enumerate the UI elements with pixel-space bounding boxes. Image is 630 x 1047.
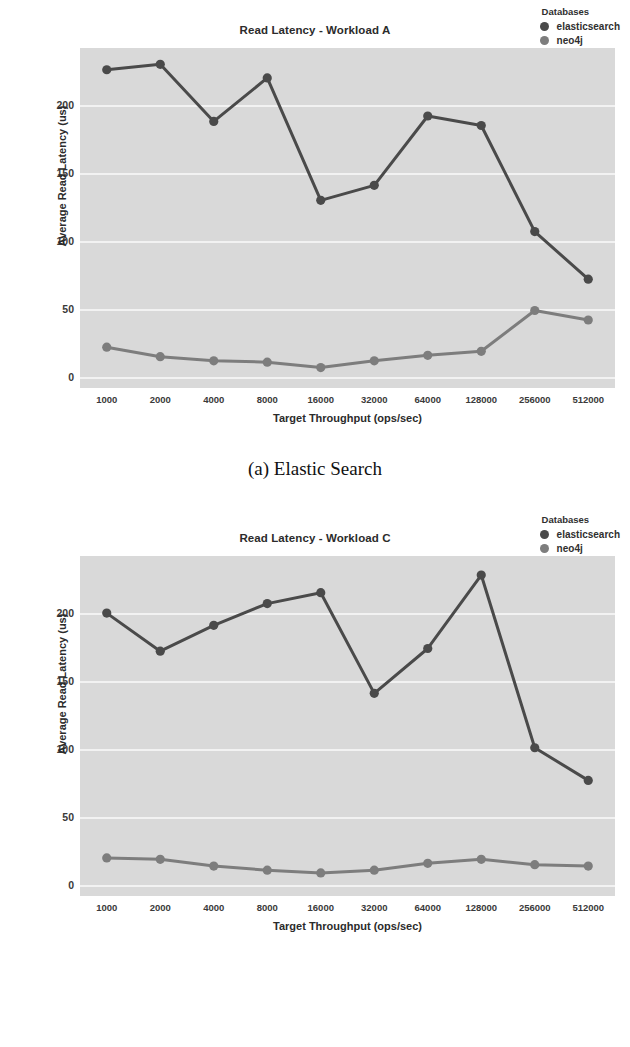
data-point xyxy=(584,861,593,870)
legend-marker-icon xyxy=(540,530,549,539)
data-point xyxy=(263,599,272,608)
data-point xyxy=(156,352,165,361)
data-point xyxy=(477,570,486,579)
x-tick-label: 512000 xyxy=(572,394,604,405)
legend-item-elasticsearch[interactable]: elasticsearch xyxy=(540,529,620,540)
data-point xyxy=(370,181,379,190)
chart-read-latency-workload-c: Read Latency - Workload C 050100150200 A… xyxy=(0,508,630,958)
data-point xyxy=(102,343,111,352)
x-tick-label: 16000 xyxy=(308,902,334,913)
data-point xyxy=(102,609,111,618)
data-point xyxy=(530,227,539,236)
data-point xyxy=(370,689,379,698)
legend-item-elasticsearch[interactable]: elasticsearch xyxy=(540,21,620,32)
x-tick-label: 8000 xyxy=(257,394,278,405)
series-line-neo4j xyxy=(107,858,589,873)
data-point xyxy=(584,275,593,284)
data-point xyxy=(102,65,111,74)
figure-elastic-search: Read Latency - Workload A 050100150200 A… xyxy=(0,0,630,500)
legend-marker-icon xyxy=(540,544,549,553)
chart-read-latency-workload-a: Read Latency - Workload A 050100150200 A… xyxy=(0,0,630,450)
legend: Databaseselasticsearchneo4j xyxy=(536,512,624,559)
data-point xyxy=(263,358,272,367)
plot-area xyxy=(80,556,615,896)
x-tick-label: 4000 xyxy=(203,902,224,913)
legend-item-neo4j[interactable]: neo4j xyxy=(540,35,620,46)
y-tick-label: 0 xyxy=(30,879,74,891)
data-point xyxy=(530,860,539,869)
series-plot xyxy=(80,556,615,896)
data-point xyxy=(584,315,593,324)
y-axis-label: Average Read Latency (us) xyxy=(56,544,68,824)
data-point xyxy=(263,866,272,875)
legend-item-label: neo4j xyxy=(557,543,583,554)
x-tick-label: 128000 xyxy=(465,394,497,405)
legend-item-label: neo4j xyxy=(557,35,583,46)
y-axis-label: Average Read Latency (us) xyxy=(56,36,68,316)
data-point xyxy=(530,743,539,752)
x-tick-label: 128000 xyxy=(465,902,497,913)
data-point xyxy=(102,853,111,862)
data-point xyxy=(209,356,218,365)
legend-title: Databases xyxy=(540,514,620,525)
x-tick-label: 2000 xyxy=(150,902,171,913)
x-tick-label: 8000 xyxy=(257,902,278,913)
legend-item-neo4j[interactable]: neo4j xyxy=(540,543,620,554)
data-point xyxy=(423,111,432,120)
x-tick-label: 2000 xyxy=(150,394,171,405)
data-point xyxy=(370,356,379,365)
series-line-elasticsearch xyxy=(107,575,589,780)
legend-marker-icon xyxy=(540,36,549,45)
data-point xyxy=(370,866,379,875)
data-point xyxy=(156,855,165,864)
x-tick-label: 64000 xyxy=(415,394,441,405)
legend: Databaseselasticsearchneo4j xyxy=(536,4,624,51)
data-point xyxy=(156,60,165,69)
data-point xyxy=(316,363,325,372)
data-point xyxy=(477,347,486,356)
data-point xyxy=(423,644,432,653)
x-tick-label: 32000 xyxy=(361,394,387,405)
x-tick-label: 16000 xyxy=(308,394,334,405)
x-tick-label: 256000 xyxy=(519,902,551,913)
data-point xyxy=(263,73,272,82)
data-point xyxy=(209,117,218,126)
figure-neo4j: Read Latency - Workload C 050100150200 A… xyxy=(0,508,630,1013)
series-line-neo4j xyxy=(107,310,589,367)
data-point xyxy=(423,351,432,360)
x-tick-label: 512000 xyxy=(572,902,604,913)
x-tick-label: 32000 xyxy=(361,902,387,913)
data-point xyxy=(423,859,432,868)
x-tick-label: 1000 xyxy=(96,902,117,913)
series-plot xyxy=(80,48,615,388)
x-axis-label: Target Throughput (ops/sec) xyxy=(80,920,615,932)
legend-item-label: elasticsearch xyxy=(557,21,620,32)
plot-area xyxy=(80,48,615,388)
x-tick-label: 4000 xyxy=(203,394,224,405)
legend-marker-icon xyxy=(540,22,549,31)
x-axis-label: Target Throughput (ops/sec) xyxy=(80,412,615,424)
data-point xyxy=(584,776,593,785)
x-tick-label: 64000 xyxy=(415,902,441,913)
data-point xyxy=(316,196,325,205)
data-point xyxy=(316,588,325,597)
y-tick-label: 0 xyxy=(30,371,74,383)
data-point xyxy=(209,861,218,870)
legend-title: Databases xyxy=(540,6,620,17)
figure-caption: (a) Elastic Search xyxy=(0,458,630,480)
legend-item-label: elasticsearch xyxy=(557,529,620,540)
data-point xyxy=(477,121,486,130)
data-point xyxy=(209,621,218,630)
x-tick-label: 256000 xyxy=(519,394,551,405)
data-point xyxy=(477,855,486,864)
data-point xyxy=(530,306,539,315)
data-point xyxy=(156,647,165,656)
series-line-elasticsearch xyxy=(107,64,589,279)
data-point xyxy=(316,868,325,877)
x-tick-label: 1000 xyxy=(96,394,117,405)
